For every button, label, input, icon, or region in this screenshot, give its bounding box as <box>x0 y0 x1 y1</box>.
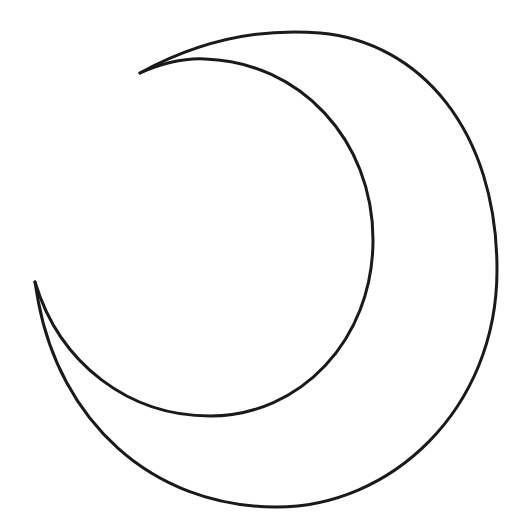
drawing-canvas <box>0 0 522 526</box>
crescent-outer-arc <box>35 32 497 507</box>
crescent-inner-arc <box>35 59 373 416</box>
crescent-moon-icon <box>0 0 522 526</box>
